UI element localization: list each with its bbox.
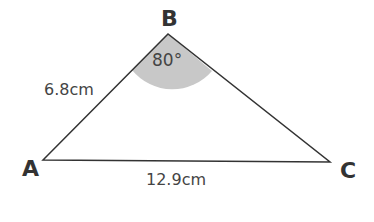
vertex-label-c: C <box>340 160 356 182</box>
angle-b-label: 80° <box>152 52 182 69</box>
side-ab-label: 6.8cm <box>44 82 94 98</box>
vertex-label-a: A <box>22 158 39 180</box>
vertex-label-b: B <box>161 8 178 30</box>
side-ac-label: 12.9cm <box>146 172 206 188</box>
